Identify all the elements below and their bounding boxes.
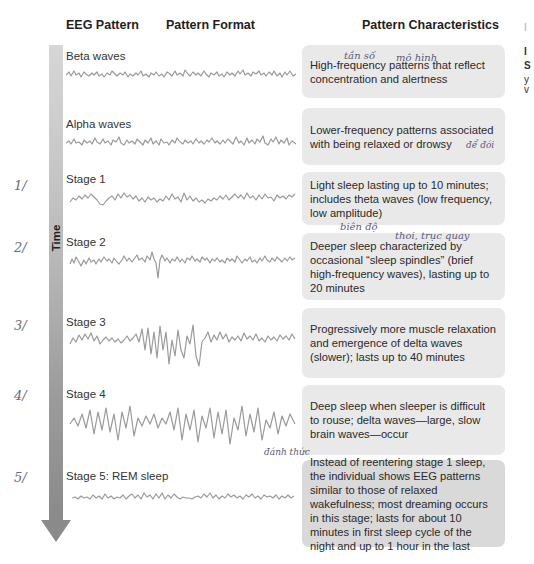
- handwritten-note-frequency: tần số: [344, 50, 375, 61]
- header-pattern-characteristics: Pattern Characteristics: [362, 18, 499, 32]
- stage-name-alpha: Alpha waves: [66, 118, 131, 130]
- arrow-down-icon: [41, 520, 71, 542]
- handwritten-note-rouse: đánh thức: [264, 447, 310, 457]
- eeg-waveform-stage-5-rem: [66, 490, 296, 504]
- characteristics-card-stage-4: Deep sleep when sleeper is difficult to …: [302, 385, 505, 455]
- characteristics-text-stage-5-rem: Instead of reentering stage 1 sleep, the…: [310, 455, 497, 553]
- stage-name-stage-2: Stage 2: [66, 236, 106, 248]
- eeg-waveform-beta: [66, 66, 296, 82]
- characteristics-card-stage-3: Progressively more muscle relaxation and…: [302, 308, 505, 378]
- handwritten-number-5: 5/: [14, 470, 27, 485]
- characteristics-card-stage-2: Deeper sleep characterized by occasional…: [302, 233, 505, 300]
- eeg-waveform-alpha: [66, 133, 296, 151]
- time-axis-label: Time: [50, 224, 62, 252]
- characteristics-text-stage-1: Light sleep lasting up to 10 minutes; in…: [310, 178, 497, 220]
- stage-name-stage-1: Stage 1: [66, 173, 106, 185]
- eeg-waveform-stage-4: [66, 400, 296, 450]
- stage-name-beta: Beta waves: [66, 50, 125, 62]
- edge-fragment: v: [524, 84, 529, 95]
- header-eeg-pattern: EEG Pattern: [66, 18, 139, 32]
- stage-name-stage-4: Stage 4: [66, 388, 106, 400]
- characteristics-text-stage-3: Progressively more muscle relaxation and…: [310, 322, 497, 364]
- edge-fragment: S: [524, 60, 531, 71]
- handwritten-number-1: 1/: [14, 178, 27, 193]
- handwritten-number-3: 3/: [14, 318, 27, 333]
- header-pattern-format: Pattern Format: [166, 18, 255, 32]
- edge-fragment: I: [524, 22, 527, 33]
- characteristics-text-stage-4: Deep sleep when sleeper is difficult to …: [310, 399, 497, 441]
- characteristics-card-stage-1: Light sleep lasting up to 10 minutes; in…: [302, 172, 505, 225]
- eeg-waveform-stage-1: [66, 188, 296, 210]
- handwritten-note-patterns: mô hình: [396, 52, 437, 63]
- time-arrow-shaft: [49, 45, 63, 522]
- handwritten-number-2: 2/: [14, 240, 27, 255]
- characteristics-card-stage-5-rem: Instead of reentering stage 1 sleep, the…: [302, 460, 505, 547]
- characteristics-text-stage-2: Deeper sleep characterized by occasional…: [310, 239, 497, 295]
- stage-name-stage-5-rem: Stage 5: REM sleep: [66, 470, 168, 482]
- eeg-waveform-stage-2: [66, 250, 296, 282]
- handwritten-number-4: 4/: [14, 388, 27, 403]
- handwritten-note-spindles: thoi, trục quay: [395, 230, 470, 241]
- handwritten-note-drowsy: để đói: [466, 140, 494, 150]
- handwritten-note-amplitude: biên độ: [340, 221, 378, 232]
- eeg-waveform-stage-3: [66, 320, 296, 370]
- edge-fragment: I: [524, 46, 527, 57]
- characteristics-card-alpha: Lower-frequency patterns associated with…: [302, 108, 505, 165]
